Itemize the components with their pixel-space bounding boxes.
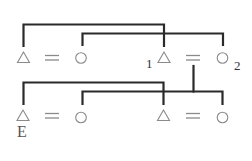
triangle-male-icon — [18, 52, 30, 63]
upper-connectors — [24, 25, 224, 47]
equals-marriage-icon — [45, 56, 59, 61]
label-ego: E — [17, 124, 27, 140]
label-person-2: 2 — [234, 59, 241, 72]
lower-inner-bracket — [83, 92, 223, 105]
circle-female-icon — [217, 112, 228, 123]
triangle-male-1-icon — [158, 52, 170, 63]
label-person-1: 1 — [146, 57, 153, 70]
equals-marriage-1-2-icon — [186, 56, 200, 61]
circle-female-icon — [76, 112, 87, 123]
upper-inner-bracket — [83, 34, 224, 46]
kinship-diagram — [0, 0, 252, 161]
triangle-male-icon — [158, 110, 170, 121]
equals-marriage-icon — [186, 114, 200, 119]
upper-outer-bracket — [24, 25, 165, 47]
upper-row — [18, 52, 228, 63]
circle-female-icon — [76, 53, 87, 64]
circle-female-2-icon — [217, 53, 228, 64]
equals-marriage-icon — [45, 114, 59, 119]
lower-row — [17, 110, 228, 123]
triangle-ego-icon — [17, 110, 29, 121]
lower-outer-bracket — [24, 83, 164, 105]
